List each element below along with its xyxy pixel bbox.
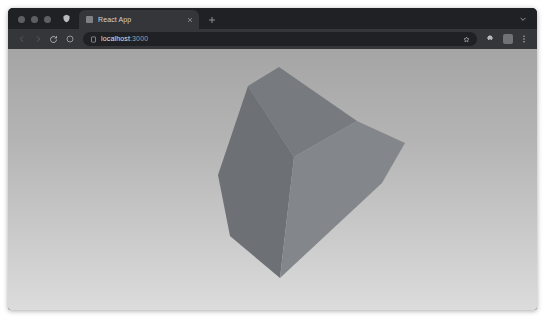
chevron-down-icon[interactable] — [516, 12, 529, 25]
zoom-window-button[interactable] — [44, 16, 51, 23]
tab-strip: React App — [8, 8, 537, 29]
screen: React App — [0, 0, 545, 318]
reload-icon[interactable] — [47, 33, 60, 46]
minimize-window-button[interactable] — [31, 16, 38, 23]
shield-icon[interactable] — [60, 12, 73, 25]
forward-icon[interactable] — [31, 33, 44, 46]
back-icon[interactable] — [15, 33, 28, 46]
browser-toolbar: localhost:3000 — [8, 29, 537, 49]
toolbar-actions — [483, 33, 530, 46]
browser-tab-react-app[interactable]: React App — [79, 10, 199, 29]
url-port: :3000 — [130, 35, 148, 42]
address-bar[interactable]: localhost:3000 — [83, 32, 477, 46]
tab-strip-actions — [516, 12, 537, 29]
close-window-button[interactable] — [18, 16, 25, 23]
page-viewport[interactable] — [8, 49, 537, 310]
profile-avatar[interactable] — [503, 34, 513, 44]
browser-window: React App — [8, 8, 537, 310]
menu-icon[interactable] — [517, 33, 530, 46]
tab-title: React App — [98, 15, 185, 24]
react-favicon — [86, 16, 93, 23]
url-host: localhost — [101, 35, 130, 42]
extensions-icon[interactable] — [483, 33, 496, 46]
new-tab-button[interactable] — [204, 12, 219, 27]
window-traffic-lights — [8, 16, 60, 29]
shield-icon[interactable] — [63, 33, 76, 46]
bookmark-star-icon[interactable] — [458, 35, 471, 44]
close-icon[interactable] — [185, 15, 195, 25]
url-text: localhost:3000 — [101, 35, 148, 43]
page-info-icon[interactable] — [89, 35, 97, 43]
three-js-canvas[interactable] — [8, 49, 537, 310]
